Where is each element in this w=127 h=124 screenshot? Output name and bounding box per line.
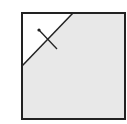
segment-endpoint-dot bbox=[37, 28, 40, 31]
diagram-canvas bbox=[0, 0, 127, 124]
